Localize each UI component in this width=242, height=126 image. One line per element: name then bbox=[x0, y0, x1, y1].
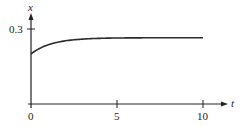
x-tick-label-10: 10 bbox=[197, 110, 209, 122]
x-axis-label: t bbox=[231, 97, 235, 109]
y-axis-label: x bbox=[27, 1, 33, 13]
x-tick-label-0: 0 bbox=[28, 110, 34, 122]
x-tick-label-5: 5 bbox=[114, 110, 120, 122]
y-axis-arrow-icon bbox=[29, 13, 34, 20]
y-tick-label-0.3: 0.3 bbox=[9, 23, 23, 35]
data-curve bbox=[31, 38, 203, 54]
x-axis-arrow-icon bbox=[221, 102, 228, 107]
chart: x t 0 5 10 0.3 bbox=[0, 0, 242, 126]
